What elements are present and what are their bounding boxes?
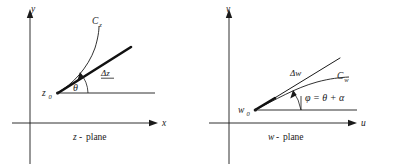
caption-separator-z: - [79, 132, 82, 142]
increment-vector-delta-z [58, 47, 131, 93]
curve-label-cz: C z [92, 16, 102, 28]
point-label-z0: z 0 [41, 88, 52, 100]
caption-word-z: plane [86, 132, 107, 142]
point-label-z0-subscript: 0 [48, 93, 52, 100]
curve-label-cw-base: C [337, 71, 344, 81]
z-plane-svg: y x z 0 C z Δz θ [0, 0, 197, 164]
curve-label-cz-subscript: z [98, 21, 102, 28]
angle-arc-arrowhead [290, 90, 296, 99]
point-label-w0-subscript: 0 [247, 110, 251, 117]
point-marker-w0 [254, 109, 257, 112]
angle-equation-phi: φ = θ + α [305, 92, 345, 103]
y-axis [27, 9, 33, 164]
caption-variable-w: w [268, 132, 275, 142]
curve-label-cw-subscript: w [344, 76, 349, 83]
panel-caption-w: w - plane [268, 132, 304, 142]
panel-z-plane: y x z 0 C z Δz θ [0, 0, 197, 164]
y-axis-label: y [30, 4, 36, 14]
increment-label-delta-w: Δw [289, 68, 301, 78]
v-axis [226, 9, 232, 164]
point-label-w0-base: w [238, 105, 245, 115]
caption-word-w: plane [283, 132, 304, 142]
point-label-z0-base: z [41, 88, 46, 98]
x-axis-label: x [161, 118, 167, 128]
u-axis-label: u [361, 118, 366, 128]
panel-w-plane: v u w 0 C w [197, 0, 394, 164]
curve-label-cw: C w [337, 71, 349, 83]
v-axis-label: v [226, 4, 231, 14]
angle-label-theta: θ [73, 82, 78, 93]
curve-label-cz-base: C [92, 16, 99, 26]
caption-variable-z: z [72, 132, 77, 142]
x-axis [12, 120, 158, 126]
curve-cz [57, 26, 99, 93]
w-plane-svg: v u w 0 C w [197, 0, 394, 164]
u-axis [209, 120, 357, 126]
point-marker-z0 [56, 92, 59, 95]
increment-label-delta-z: Δz [100, 68, 110, 78]
figure-root: y x z 0 C z Δz θ [0, 0, 394, 164]
vertex-thick-stub [255, 98, 275, 110]
point-label-w0: w 0 [238, 105, 251, 117]
caption-separator-w: - [276, 132, 279, 142]
panel-caption-z: z - plane [72, 132, 107, 142]
